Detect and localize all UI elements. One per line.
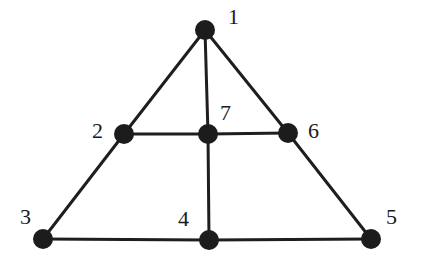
node-label-3: 3	[20, 204, 31, 229]
node-1	[195, 20, 215, 40]
edge-4-5	[209, 239, 371, 240]
node-label-7: 7	[220, 100, 231, 125]
edge-7-6	[208, 133, 288, 134]
edge-1-7	[205, 30, 208, 134]
edge-6-5	[288, 133, 371, 239]
node-label-4: 4	[178, 206, 189, 231]
node-4	[199, 230, 219, 250]
edge-7-4	[208, 134, 209, 240]
graph-diagram: 1234567	[0, 0, 424, 271]
node-5	[361, 229, 381, 249]
edge-2-3	[43, 134, 124, 239]
node-label-2: 2	[92, 118, 103, 143]
node-label-1: 1	[228, 4, 239, 29]
edge-3-4	[43, 239, 209, 240]
node-6	[278, 123, 298, 143]
node-3	[33, 229, 53, 249]
edge-1-2	[124, 30, 205, 134]
node-2	[114, 124, 134, 144]
edge-1-6	[205, 30, 288, 133]
node-label-6: 6	[308, 118, 319, 143]
node-label-5: 5	[386, 204, 397, 229]
node-7	[198, 124, 218, 144]
